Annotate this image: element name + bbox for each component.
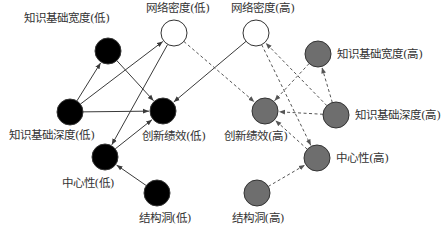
node-label-cen-high: 中心性(高) bbox=[336, 151, 389, 165]
node-ip-low bbox=[150, 98, 176, 124]
node-label-kbw-low: 知识基础宽度(低) bbox=[24, 11, 110, 25]
edge-kbd_low-to-kbw_low bbox=[77, 63, 101, 101]
node-label-kbd-high: 知识基础深度(高) bbox=[355, 108, 441, 122]
node-label-sh-low: 结构洞(低) bbox=[139, 211, 192, 225]
node-label-kbd-low: 知识基础深度(低) bbox=[9, 128, 95, 142]
causal-network-diagram: 知识基础宽度(低)网络密度(低)网络密度(高)知识基础宽度(高)知识基础深度(低… bbox=[0, 0, 446, 229]
edge-kbd_low-to-nd_low bbox=[80, 41, 162, 104]
node-cen-low bbox=[92, 144, 118, 170]
edge-nd_low-to-ip_high bbox=[184, 41, 255, 101]
node-label-nd-low: 网络密度(低) bbox=[146, 1, 210, 15]
edge-nd_high-to-ip_low bbox=[174, 41, 246, 102]
node-ip-high bbox=[252, 98, 278, 124]
node-label-nd-high: 网络密度(高) bbox=[231, 1, 295, 15]
edge-sh_low-to-cen_low bbox=[117, 165, 147, 186]
node-label-ip-high: 创新绩效(高) bbox=[224, 129, 288, 143]
edge-kbd_high-to-kbw_high bbox=[322, 67, 332, 102]
node-cen-high bbox=[304, 145, 330, 171]
node-nd-low bbox=[161, 20, 187, 46]
node-kbd-low bbox=[57, 99, 83, 125]
node-sh-high bbox=[244, 180, 270, 206]
node-label-cen-low: 中心性(低) bbox=[62, 176, 115, 190]
edge-kbd_low-to-ip_low bbox=[83, 111, 149, 112]
node-sh-low bbox=[144, 180, 170, 206]
node-kbw-high bbox=[305, 41, 331, 67]
node-kbd-high bbox=[323, 102, 349, 128]
node-label-ip-low: 创新绩效(低) bbox=[142, 129, 206, 143]
node-nd-high bbox=[243, 20, 269, 46]
edge-kbd_high-to-ip_high bbox=[279, 112, 323, 114]
node-label-kbw-high: 知识基础宽度(高) bbox=[337, 47, 423, 61]
edge-sh_high-to-cen_high bbox=[268, 165, 305, 186]
node-label-sh-high: 结构洞(高) bbox=[232, 211, 285, 225]
node-kbw-low bbox=[95, 38, 121, 64]
